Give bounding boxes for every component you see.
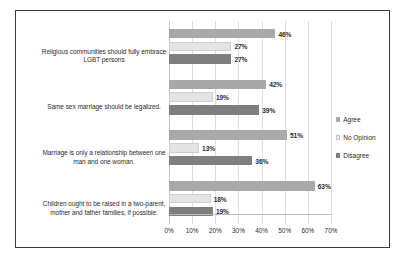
legend-item-noop[interactable]: No Opinion (336, 134, 398, 141)
bar-value-label: 42% (269, 81, 282, 88)
bar-agree[interactable] (169, 181, 315, 191)
category-label-line: Children ought to be raised in a two-par… (34, 200, 174, 209)
gridline (331, 21, 332, 224)
bar-value-label: 19% (216, 94, 229, 101)
bar-value-label: 27% (234, 43, 247, 50)
x-tick-label: 50% (278, 227, 291, 234)
legend-swatch-icon (336, 117, 340, 121)
category-label-line: Same sex marriage should be legalized. (34, 103, 174, 112)
x-tick-label: 70% (325, 227, 338, 234)
bar-row: 19% (169, 92, 331, 102)
bar-groups: 46%27%27%42%19%39%51%13%36%63%18%19% (169, 21, 331, 224)
category-label-line: mother and father families, if possible. (34, 209, 174, 218)
bar-value-label: 51% (290, 132, 303, 139)
bar-agree[interactable] (169, 29, 275, 39)
category-label: Marriage is only a relationship between … (34, 149, 174, 166)
bar-row: 42% (169, 80, 331, 90)
plot-area: 46%27%27%42%19%39%51%13%36%63%18%19% (169, 21, 331, 224)
chart-container: 46%27%27%42%19%39%51%13%36%63%18%19% Rel… (0, 0, 406, 259)
legend-item-agree[interactable]: Agree (336, 116, 398, 123)
category-label-line: LGBT persons (34, 56, 174, 65)
bar-group: 46%27%27% (169, 21, 331, 72)
bar-value-label: 63% (318, 182, 331, 189)
x-tick-label: 40% (255, 227, 268, 234)
bar-value-label: 13% (202, 144, 215, 151)
bar-row: 27% (169, 42, 331, 52)
bar-disagree[interactable] (169, 105, 259, 115)
bar-agree[interactable] (169, 130, 287, 140)
category-label: Children ought to be raised in a two-par… (34, 200, 174, 217)
legend-label: Disagree (343, 152, 369, 159)
bar-value-label: 36% (255, 157, 268, 164)
chart-frame: 46%27%27%42%19%39%51%13%36%63%18%19% Rel… (15, 10, 390, 248)
bar-value-label: 46% (278, 30, 291, 37)
bar-row: 13% (169, 143, 331, 153)
bar-value-label: 27% (234, 56, 247, 63)
bar-row: 63% (169, 181, 331, 191)
bar-agree[interactable] (169, 80, 266, 90)
bar-group: 42%19%39% (169, 72, 331, 123)
category-label: Same sex marriage should be legalized. (34, 103, 174, 112)
x-tick-label: 30% (232, 227, 245, 234)
bar-row: 51% (169, 130, 331, 140)
bar-value-label: 18% (214, 195, 227, 202)
category-label: Religious communities should fully embra… (34, 48, 174, 65)
bar-row: 39% (169, 105, 331, 115)
x-tick-label: 20% (209, 227, 222, 234)
category-label-line: Marriage is only a relationship between … (34, 149, 174, 158)
legend-swatch-icon (336, 135, 340, 139)
bar-noop[interactable] (169, 42, 231, 52)
bar-group: 63%18%19% (169, 173, 331, 224)
bar-row: 18% (169, 194, 331, 204)
x-axis-line (169, 214, 331, 215)
category-label-line: man and one woman. (34, 158, 174, 167)
category-label-line: Religious communities should fully embra… (34, 48, 174, 57)
legend-swatch-icon (336, 153, 340, 157)
bar-row: 27% (169, 54, 331, 64)
bar-disagree[interactable] (169, 156, 252, 166)
chart-legend: AgreeNo OpinionDisagree (336, 116, 398, 170)
bar-noop[interactable] (169, 92, 213, 102)
bar-disagree[interactable] (169, 54, 231, 64)
legend-label: Agree (343, 116, 360, 123)
legend-label: No Opinion (343, 134, 376, 141)
x-axis-tick-labels: 0%10%20%30%40%50%60%70% (169, 227, 331, 239)
bar-row: 46% (169, 29, 331, 39)
bar-noop[interactable] (169, 194, 211, 204)
x-tick-label: 10% (186, 227, 199, 234)
bar-group: 51%13%36% (169, 123, 331, 174)
legend-item-disagree[interactable]: Disagree (336, 152, 398, 159)
bar-row: 36% (169, 156, 331, 166)
bar-value-label: 39% (262, 106, 275, 113)
category-axis-labels: Religious communities should fully embra… (34, 31, 174, 234)
x-tick-label: 0% (164, 227, 173, 234)
x-tick-label: 60% (301, 227, 314, 234)
